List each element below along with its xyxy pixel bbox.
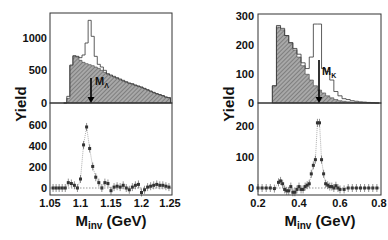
data-point bbox=[140, 191, 143, 194]
y-tick: 500 bbox=[29, 64, 47, 76]
data-point bbox=[314, 158, 317, 161]
data-point bbox=[97, 181, 100, 184]
chart-canvas: MΛ 1000 500 0 600 400 200 0 1.05 1.1 1.1… bbox=[0, 0, 388, 240]
data-point bbox=[82, 143, 85, 146]
y-tick: 600 bbox=[29, 119, 47, 131]
x-tick: 1.25 bbox=[159, 197, 180, 209]
data-point bbox=[161, 184, 164, 187]
right-x-axis-label: Minv (GeV) bbox=[284, 212, 355, 231]
data-point bbox=[310, 172, 313, 175]
x-tick: 0.8 bbox=[371, 197, 386, 209]
data-point bbox=[279, 179, 282, 182]
background-hist bbox=[64, 56, 171, 103]
left-upper-histogram bbox=[64, 20, 171, 103]
data-point bbox=[128, 188, 131, 191]
data-point bbox=[103, 181, 106, 184]
data-point bbox=[164, 185, 167, 188]
fit-curve bbox=[258, 123, 377, 192]
data-point bbox=[312, 164, 315, 167]
data-point bbox=[281, 182, 284, 185]
data-point bbox=[152, 184, 155, 187]
left-lower-scatter bbox=[52, 123, 171, 197]
y-tick: 0 bbox=[248, 97, 254, 109]
data-point bbox=[302, 188, 305, 191]
data-point bbox=[158, 184, 161, 187]
x-tick: 0.6 bbox=[332, 197, 347, 209]
data-point bbox=[155, 183, 158, 186]
y-tick: 0 bbox=[41, 182, 47, 194]
left-y-axis-label: Yield bbox=[12, 86, 29, 121]
data-point bbox=[94, 176, 97, 179]
x-tick: 0.4 bbox=[291, 197, 307, 209]
right-panel: MK 300 200 100 0 200 100 0 0.2 0.4 0.6 0… bbox=[220, 10, 387, 231]
data-point bbox=[287, 189, 290, 192]
data-point bbox=[70, 182, 73, 185]
data-point bbox=[343, 188, 346, 191]
left-panel: MΛ 1000 500 0 600 400 200 0 1.05 1.1 1.1… bbox=[12, 13, 181, 231]
y-tick: 200 bbox=[236, 39, 254, 51]
right-annotation: MK bbox=[322, 65, 336, 79]
data-point bbox=[295, 188, 298, 191]
data-point bbox=[308, 182, 311, 185]
data-point bbox=[73, 184, 76, 187]
x-tick: 1.05 bbox=[39, 197, 60, 209]
right-lower-frame bbox=[258, 103, 381, 195]
x-tick: 0.2 bbox=[250, 197, 265, 209]
y-tick: 0 bbox=[248, 182, 254, 194]
data-point bbox=[122, 184, 125, 187]
data-point bbox=[149, 185, 152, 188]
data-point bbox=[85, 125, 88, 128]
right-y-axis-label: Yield bbox=[220, 86, 237, 121]
y-tick: 100 bbox=[236, 151, 254, 163]
x-tick: 1.15 bbox=[100, 197, 121, 209]
data-point bbox=[79, 178, 82, 181]
data-point bbox=[322, 172, 325, 175]
data-point bbox=[88, 147, 91, 150]
y-tick: 100 bbox=[236, 68, 254, 80]
data-point bbox=[318, 121, 321, 124]
data-point bbox=[106, 182, 109, 185]
left-x-axis-label: Minv (GeV) bbox=[75, 212, 146, 231]
data-point bbox=[320, 158, 323, 161]
data-point bbox=[273, 187, 276, 190]
x-tick: 1.2 bbox=[134, 197, 149, 209]
y-tick: 1000 bbox=[23, 32, 47, 44]
right-lower-scatter bbox=[257, 119, 379, 196]
data-point bbox=[143, 188, 146, 191]
y-tick: 400 bbox=[29, 140, 47, 152]
data-point bbox=[110, 189, 113, 192]
data-point bbox=[293, 191, 296, 194]
data-point bbox=[339, 188, 342, 191]
y-tick: 200 bbox=[236, 120, 254, 132]
y-tick: 300 bbox=[236, 10, 254, 22]
y-tick: 0 bbox=[41, 97, 47, 109]
data-point bbox=[134, 184, 137, 187]
data-point bbox=[289, 185, 292, 188]
data-point bbox=[137, 183, 140, 186]
data-point bbox=[67, 181, 70, 184]
x-tick: 1.1 bbox=[73, 197, 88, 209]
y-tick: 200 bbox=[29, 161, 47, 173]
right-upper-histogram bbox=[272, 24, 379, 103]
data-point bbox=[91, 165, 94, 168]
data-point bbox=[298, 185, 301, 188]
data-point bbox=[116, 185, 119, 188]
